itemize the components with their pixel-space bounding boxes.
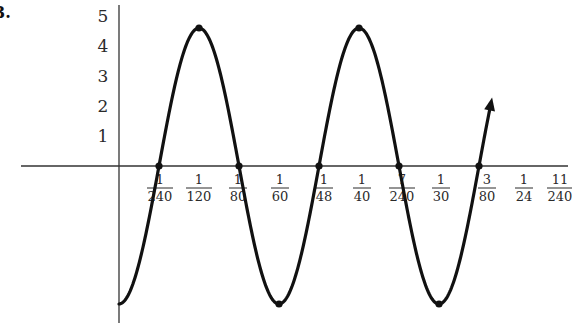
- data-point: [195, 24, 202, 31]
- fraction-numerator: 1: [358, 172, 366, 187]
- x-tick-label: 124: [515, 172, 533, 204]
- data-point: [275, 300, 282, 307]
- y-tick-label: 2: [98, 96, 109, 116]
- x-tick-label: 130: [432, 172, 450, 204]
- x-tick-label: 140: [353, 172, 371, 204]
- data-point: [435, 300, 442, 307]
- fraction-denominator: 40: [354, 189, 371, 204]
- sinusoid-chart: 3. 12345 1240112018016014814072401303801…: [0, 0, 572, 330]
- fraction-numerator: 1: [520, 172, 528, 187]
- x-tick-label: 380: [478, 172, 496, 204]
- data-point: [235, 162, 242, 169]
- fraction-denominator: 48: [316, 189, 333, 204]
- fraction-denominator: 240: [390, 189, 415, 204]
- data-point: [155, 162, 162, 169]
- fraction-numerator: 1: [276, 172, 284, 187]
- x-tick-label: 1240: [147, 172, 173, 204]
- y-tick-label: 5: [98, 6, 109, 26]
- y-tick-label: 4: [98, 36, 109, 56]
- arrow-head-icon: [484, 98, 495, 112]
- x-tick-labels: 12401120180160148140724013038012411240: [147, 172, 572, 204]
- fraction-numerator: 3: [483, 172, 491, 187]
- y-tick-labels: 12345: [98, 6, 109, 146]
- fraction-numerator: 11: [552, 172, 569, 187]
- fraction-denominator: 80: [479, 189, 496, 204]
- fraction-numerator: 1: [437, 172, 445, 187]
- y-tick-label: 3: [98, 66, 109, 86]
- fraction-denominator: 120: [187, 189, 212, 204]
- data-point: [355, 24, 362, 31]
- data-point: [395, 162, 402, 169]
- fraction-denominator: 24: [516, 189, 533, 204]
- x-tick-label: 160: [271, 172, 289, 204]
- problem-number: 3.: [0, 3, 11, 22]
- fraction-denominator: 240: [548, 189, 572, 204]
- fraction-numerator: 1: [195, 172, 203, 187]
- x-tick-label: 1120: [186, 172, 212, 204]
- y-tick-label: 1: [98, 126, 109, 146]
- fraction-denominator: 30: [433, 189, 450, 204]
- fraction-denominator: 60: [272, 189, 289, 204]
- data-point: [315, 162, 322, 169]
- fraction-numerator: 1: [320, 172, 328, 187]
- data-point: [475, 162, 482, 169]
- x-tick-label: 11240: [547, 172, 572, 204]
